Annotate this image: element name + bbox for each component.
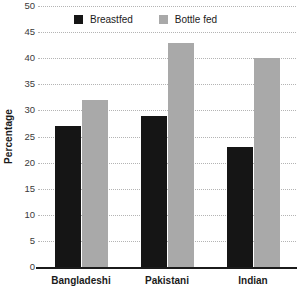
bar-chart: Percentage 05101520253035404550 Banglade… bbox=[0, 0, 301, 302]
bar-breastfed bbox=[141, 116, 167, 267]
y-axis-tick-label: 50 bbox=[24, 1, 35, 11]
y-axis-tick-label: 30 bbox=[24, 106, 35, 116]
legend-item-breastfed: Breastfed bbox=[74, 14, 133, 25]
y-axis-tick-label: 25 bbox=[24, 132, 35, 142]
bar-breastfed bbox=[55, 126, 81, 267]
bar-group bbox=[141, 6, 194, 267]
y-axis-tick-label: 40 bbox=[24, 53, 35, 63]
bar-bottle-fed bbox=[168, 43, 194, 267]
bar-bottle-fed bbox=[82, 100, 108, 267]
y-axis-tick-label: 20 bbox=[24, 158, 35, 168]
bars-layer bbox=[38, 6, 296, 267]
x-axis-tick-label: Bangladeshi bbox=[51, 275, 110, 286]
bar-bottle-fed bbox=[254, 58, 280, 267]
bar-breastfed bbox=[227, 147, 253, 267]
bar-group bbox=[55, 6, 108, 267]
legend-item-bottlefed: Bottle fed bbox=[159, 14, 217, 25]
x-axis-tick-label: Pakistani bbox=[145, 275, 189, 286]
x-axis-tick-label: Indian bbox=[238, 275, 267, 286]
legend-item-label: Bottle fed bbox=[175, 14, 217, 25]
y-axis-tick-label: 5 bbox=[30, 236, 35, 246]
legend-swatch-icon bbox=[74, 15, 83, 24]
y-axis-tick-label: 10 bbox=[24, 210, 35, 220]
y-axis-tick-labels: 05101520253035404550 bbox=[16, 0, 38, 272]
y-axis-tick-label: 45 bbox=[24, 27, 35, 37]
legend-item-label: Breastfed bbox=[90, 14, 133, 25]
bar-group bbox=[227, 6, 280, 267]
legend-swatch-icon bbox=[159, 15, 168, 24]
y-axis-tick-label: 15 bbox=[24, 184, 35, 194]
y-axis-title-label: Percentage bbox=[3, 109, 14, 164]
y-axis-tick-label: 0 bbox=[30, 262, 35, 272]
y-axis-title: Percentage bbox=[0, 0, 16, 272]
x-axis-line bbox=[36, 267, 297, 269]
y-axis-tick-label: 35 bbox=[24, 80, 35, 90]
legend: BreastfedBottle fed bbox=[74, 14, 217, 25]
x-axis-tick-labels: BangladeshiPakistaniIndian bbox=[38, 275, 296, 295]
